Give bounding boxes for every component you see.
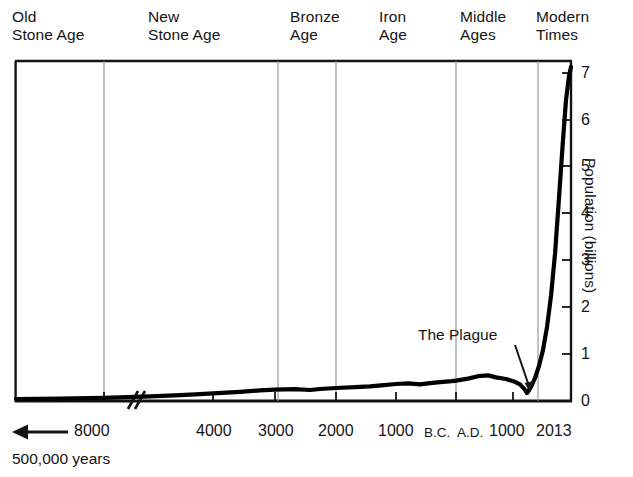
population-curve bbox=[16, 67, 571, 399]
x-tick-label-1000bc: 1000 bbox=[378, 422, 414, 440]
x-tick-label-bc: B.C. bbox=[424, 424, 450, 442]
x-tick-label-2000bc: 2000 bbox=[318, 422, 354, 440]
x-tick-label-3000bc: 3000 bbox=[258, 422, 294, 440]
x-tick-label-ad: A.D. bbox=[457, 424, 483, 442]
y-tick-label-7: 7 bbox=[581, 65, 601, 81]
chart-canvas bbox=[0, 0, 633, 477]
time-span-arrow bbox=[12, 425, 68, 440]
x-tick-label-2013: 2013 bbox=[536, 422, 572, 440]
y-tick-label-6: 6 bbox=[581, 112, 601, 128]
plot-frame bbox=[15, 61, 572, 402]
plague-annotation-label: The Plague bbox=[418, 326, 497, 344]
population-chart-figure: Old Stone Age New Stone Age Bronze Age I… bbox=[0, 0, 633, 477]
x-tick-label-4000bc: 4000 bbox=[196, 422, 232, 440]
x-tick-label-8000bc: 8000 bbox=[74, 422, 110, 440]
y-tick-label-0: 0 bbox=[581, 393, 601, 409]
x-tick-label-1000ad: 1000 bbox=[489, 422, 525, 440]
time-span-caption: 500,000 years bbox=[12, 450, 110, 468]
y-axis-title: Population (billions) bbox=[581, 158, 599, 358]
era-divider-gridlines bbox=[104, 61, 538, 401]
